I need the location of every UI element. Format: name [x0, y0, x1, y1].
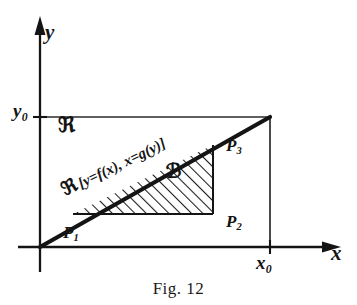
point-label-p3: P3	[226, 137, 242, 157]
region-b-label: ℬ	[166, 161, 183, 182]
point-label-p2: P2	[226, 213, 242, 233]
p3-base: P	[226, 136, 236, 155]
p1-subscript: 1	[74, 232, 79, 243]
y0-tick-label: y0	[13, 101, 28, 123]
x-axis-label: x	[331, 243, 342, 264]
figure-container: y x y0 x0 ℜ ℬ ℜ[y=f(x), x=g(y)] P1 P2 P3…	[0, 0, 357, 305]
x0-tick-label: x0	[256, 253, 272, 275]
x0-subscript: 0	[266, 263, 272, 276]
p2-subscript: 2	[237, 221, 242, 232]
figure-drawing	[0, 0, 357, 305]
point-label-p1: P1	[63, 224, 79, 244]
p2-base: P	[226, 212, 236, 231]
x0-base: x	[256, 252, 266, 273]
y-axis-label: y	[45, 22, 54, 43]
p3-subscript: 3	[237, 145, 242, 156]
y0-base: y	[13, 100, 21, 121]
p1-base: P	[63, 223, 73, 242]
y0-subscript: 0	[22, 111, 28, 124]
figure-caption: Fig. 12	[0, 279, 357, 299]
page-background	[0, 0, 357, 305]
region-r-label: ℜ	[58, 114, 75, 135]
